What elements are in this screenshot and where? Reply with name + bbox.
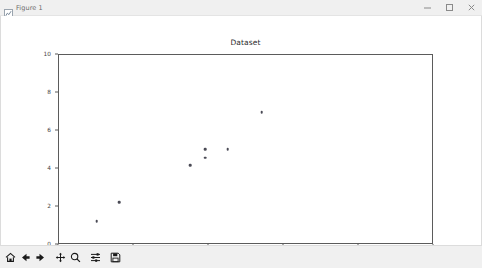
x-axis-tick [433,244,434,245]
configure-subplots-button[interactable] [88,249,103,265]
pan-button[interactable] [53,249,68,265]
figure-canvas[interactable]: Dataset 02468100246810 [0,16,482,245]
y-axis-tick [55,130,58,131]
save-button[interactable] [108,249,123,265]
back-button[interactable] [18,249,33,265]
y-axis-tick [55,92,58,93]
y-axis-tick [55,54,58,55]
plot-axes[interactable] [58,54,433,244]
title-bar-left: Figure 1 [0,3,416,12]
forward-button[interactable] [33,249,48,265]
window-controls [416,0,482,15]
y-axis-tick-label: 2 [47,203,51,209]
x-axis-tick [283,244,284,245]
x-axis-tick [208,244,209,245]
y-axis-tick-label: 0 [47,241,51,245]
close-button[interactable] [460,0,482,15]
title-bar: Figure 1 [0,0,482,16]
x-axis-tick [133,244,134,245]
maximize-button[interactable] [438,0,460,15]
figure-icon [4,3,13,12]
zoom-button[interactable] [68,249,83,265]
data-point [118,201,121,204]
data-point [95,220,98,223]
y-axis-tick-label: 10 [44,51,51,57]
x-axis-tick [358,244,359,245]
y-axis-tick [55,244,58,245]
home-button[interactable] [3,249,18,265]
minimize-button[interactable] [416,0,438,15]
figure-root: Dataset 02468100246810 [1,16,481,244]
data-point [204,148,207,151]
window-title: Figure 1 [16,4,43,12]
y-axis-tick [55,168,58,169]
data-point [260,111,263,114]
data-point [189,164,192,167]
y-axis-tick-label: 8 [47,89,51,95]
navigation-toolbar [0,245,482,268]
figure-window: Figure 1 Dataset [0,0,482,268]
data-point [226,148,229,151]
data-point [204,156,207,159]
y-axis-tick [55,206,58,207]
chart-title: Dataset [58,38,433,47]
y-axis-tick-label: 6 [47,127,51,133]
y-axis-tick-label: 4 [47,165,51,171]
